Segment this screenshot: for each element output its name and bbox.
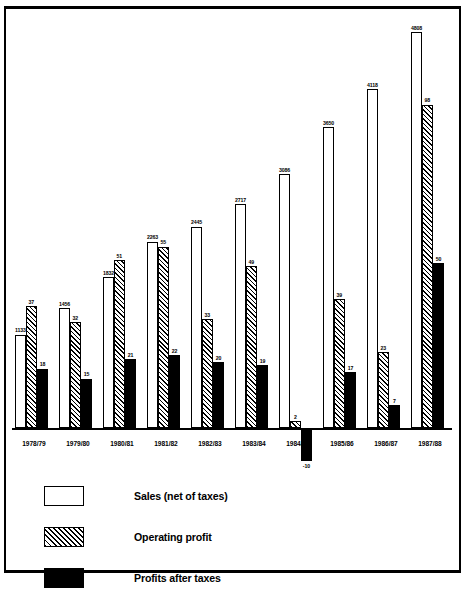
bar-sales bbox=[323, 127, 334, 428]
chart-legend: Sales (net of taxes) Operating profit Pr… bbox=[44, 482, 374, 592]
legend-item-sales: Sales (net of taxes) bbox=[44, 482, 374, 510]
bar-value-operating-profit: 51 bbox=[114, 254, 125, 259]
bar-operating-profit bbox=[70, 322, 81, 428]
bar-profits-after-taxes bbox=[213, 362, 224, 428]
bar-value-operating-profit: 32 bbox=[70, 316, 81, 321]
bar-group: 27174919 bbox=[235, 14, 275, 430]
bar-operating-profit bbox=[378, 352, 389, 428]
bar-group: 24453320 bbox=[191, 14, 231, 430]
bar-operating-profit bbox=[290, 421, 301, 428]
bar-sales bbox=[147, 242, 158, 428]
bar-value-sales: 2445 bbox=[191, 220, 202, 225]
bar-sales bbox=[367, 89, 378, 428]
bar-value-profits-after-taxes: 20 bbox=[213, 356, 224, 361]
bar-sales bbox=[15, 335, 26, 428]
bar-operating-profit bbox=[158, 247, 169, 429]
bar-value-profits-after-taxes: 7 bbox=[389, 399, 400, 404]
bar-value-operating-profit: 2 bbox=[290, 415, 301, 420]
bar-profits-after-taxes bbox=[169, 355, 180, 428]
bar-group: 11333718 bbox=[15, 14, 55, 430]
bar-group: 30862-10 bbox=[279, 14, 319, 430]
bar-operating-profit bbox=[246, 266, 257, 428]
bar-value-profits-after-taxes: 18 bbox=[37, 362, 48, 367]
bar-value-profits-after-taxes: 22 bbox=[169, 349, 180, 354]
bar-value-profits-after-taxes: -10 bbox=[301, 464, 312, 469]
bar-profits-after-taxes bbox=[389, 405, 400, 428]
bar-value-profits-after-taxes: 19 bbox=[257, 359, 268, 364]
legend-label-sales: Sales (net of taxes) bbox=[134, 490, 228, 502]
bar-value-profits-after-taxes: 50 bbox=[433, 257, 444, 262]
bar-group: 18325121 bbox=[103, 14, 143, 430]
bar-operating-profit bbox=[202, 319, 213, 428]
bar-sales bbox=[103, 277, 114, 428]
bar-group: 48089850 bbox=[411, 14, 451, 430]
bar-profits-after-taxes bbox=[81, 379, 92, 429]
bar-value-profits-after-taxes: 21 bbox=[125, 353, 136, 358]
bar-value-profits-after-taxes: 17 bbox=[345, 366, 356, 371]
bar-profits-after-taxes bbox=[433, 263, 444, 428]
bar-profits-after-taxes bbox=[125, 359, 136, 428]
bar-value-sales: 4118 bbox=[367, 83, 378, 88]
bar-value-sales: 1456 bbox=[59, 302, 70, 307]
outline-swatch-icon bbox=[44, 486, 84, 506]
bar-value-operating-profit: 55 bbox=[158, 240, 169, 245]
bar-operating-profit bbox=[422, 105, 433, 428]
bar-value-operating-profit: 33 bbox=[202, 313, 213, 318]
bar-profits-after-taxes bbox=[345, 372, 356, 428]
plot-area: 1133371814563215183251212263552224453320… bbox=[12, 14, 458, 430]
bar-value-sales: 2717 bbox=[235, 198, 246, 203]
bar-group: 4118237 bbox=[367, 14, 407, 430]
bar-value-sales: 1832 bbox=[103, 271, 114, 276]
figure-border-left bbox=[4, 6, 6, 573]
x-tick-label: 1987/88 bbox=[404, 440, 456, 447]
bar-group: 36503917 bbox=[323, 14, 363, 430]
legend-item-operating-profit: Operating profit bbox=[44, 523, 374, 551]
bar-value-sales: 4808 bbox=[411, 26, 422, 31]
hatched-swatch-icon bbox=[44, 527, 84, 547]
bar-value-operating-profit: 49 bbox=[246, 260, 257, 265]
bar-value-operating-profit: 37 bbox=[26, 300, 37, 305]
figure-border-right bbox=[459, 6, 461, 573]
bar-operating-profit bbox=[334, 299, 345, 428]
legend-label-profits-after-taxes: Profits after taxes bbox=[134, 572, 221, 584]
bar-value-sales: 3650 bbox=[323, 121, 334, 126]
bar-value-operating-profit: 39 bbox=[334, 293, 345, 298]
bar-value-sales: 1133 bbox=[15, 328, 26, 333]
bar-profits-after-taxes bbox=[37, 369, 48, 428]
bar-value-operating-profit: 23 bbox=[378, 346, 389, 351]
bar-operating-profit bbox=[26, 306, 37, 428]
bar-value-profits-after-taxes: 15 bbox=[81, 372, 92, 377]
bar-profits-after-taxes bbox=[257, 365, 268, 428]
x-axis-labels: 1978/791979/801980/811981/821982/831983/… bbox=[12, 440, 458, 454]
bar-sales bbox=[279, 174, 290, 428]
figure-border-top bbox=[4, 6, 461, 9]
bar-sales bbox=[191, 227, 202, 428]
bar-value-sales: 3086 bbox=[279, 168, 290, 173]
bar-sales bbox=[411, 32, 422, 428]
bar-group: 14563215 bbox=[59, 14, 99, 430]
legend-label-operating-profit: Operating profit bbox=[134, 531, 212, 543]
bar-sales bbox=[59, 308, 70, 428]
bar-value-operating-profit: 98 bbox=[422, 98, 433, 103]
legend-item-profits-after-taxes: Profits after taxes bbox=[44, 564, 374, 592]
bar-value-sales: 2263 bbox=[147, 235, 158, 240]
bar-sales bbox=[235, 204, 246, 428]
bar-operating-profit bbox=[114, 260, 125, 428]
solid-swatch-icon bbox=[44, 568, 84, 588]
bar-group: 22635522 bbox=[147, 14, 187, 430]
